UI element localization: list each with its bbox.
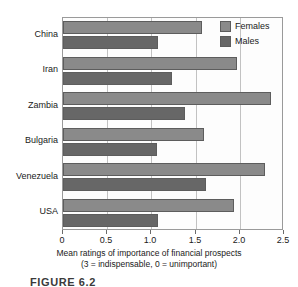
category-label-zambia: Zambia	[0, 100, 58, 110]
bar-group	[63, 57, 282, 89]
figure-caption: FIGURE 6.2	[30, 276, 96, 287]
bar-bulgaria-males	[63, 143, 157, 156]
legend-swatch-females-icon	[220, 21, 231, 32]
x-tick-mark	[150, 230, 151, 234]
bar-group	[63, 163, 282, 195]
category-label-bulgaria: Bulgaria	[0, 135, 58, 145]
category-label-usa: USA	[0, 206, 58, 216]
x-axis-subtitle: (3 = indispensable, 0 = unimportant)	[0, 259, 298, 270]
x-tick-mark	[62, 230, 63, 234]
bar-group	[63, 128, 282, 160]
x-tick-mark	[106, 230, 107, 234]
legend-swatch-males-icon	[220, 36, 231, 47]
category-label-iran: Iran	[0, 64, 58, 74]
legend-item-females: Females	[220, 20, 282, 34]
x-tick-mark	[239, 230, 240, 234]
bar-venezuela-females	[63, 163, 265, 176]
bar-iran-males	[63, 72, 172, 85]
bar-group	[63, 92, 282, 124]
bar-china-males	[63, 36, 158, 49]
bar-iran-females	[63, 57, 237, 70]
x-tick-label: 2.5	[263, 235, 298, 246]
x-tick-label: 2.0	[219, 235, 259, 246]
bar-usa-females	[63, 199, 234, 212]
x-tick-mark	[195, 230, 196, 234]
legend-item-males: Males	[220, 35, 282, 49]
legend-label-females: Females	[235, 21, 270, 32]
bar-venezuela-males	[63, 178, 206, 191]
x-tick-label: 1.5	[175, 235, 215, 246]
x-tick-label: 0	[42, 235, 82, 246]
bar-zambia-females	[63, 92, 271, 105]
x-tick-mark	[283, 230, 284, 234]
bar-zambia-males	[63, 107, 185, 120]
x-axis-title: Mean ratings of importance of financial …	[0, 248, 298, 259]
bar-bulgaria-females	[63, 128, 204, 141]
category-label-venezuela: Venezuela	[0, 171, 58, 181]
figure-root: ChinaIranZambiaBulgariaVenezuelaUSA 00.5…	[0, 0, 298, 287]
category-label-china: China	[0, 29, 58, 39]
x-tick-label: 1.0	[130, 235, 170, 246]
bar-usa-males	[63, 214, 158, 227]
chart-legend: Females Males	[220, 20, 282, 50]
x-tick-label: 0.5	[86, 235, 126, 246]
bar-china-females	[63, 21, 202, 34]
legend-label-males: Males	[235, 36, 259, 47]
bar-group	[63, 199, 282, 231]
